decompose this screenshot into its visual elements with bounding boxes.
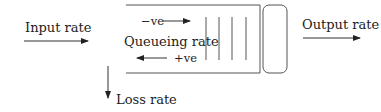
input-rate-group: Input rate (24, 20, 92, 41)
server-box (263, 5, 287, 73)
positive-label: +ve (174, 51, 197, 65)
loss-rate-label: Loss rate (116, 92, 177, 107)
output-rate-group: Output rate (302, 17, 379, 38)
input-rate-label: Input rate (25, 20, 92, 35)
output-rate-label: Output rate (302, 17, 379, 32)
negative-label: −ve (141, 14, 164, 28)
queue-buffer: −ve Queueing rate +ve (124, 5, 260, 73)
loss-rate-group: Loss rate (108, 66, 177, 107)
queue-diagram: Input rate −ve Queueing rate +ve Output … (0, 0, 381, 112)
queueing-rate-label: Queueing rate (124, 34, 219, 49)
